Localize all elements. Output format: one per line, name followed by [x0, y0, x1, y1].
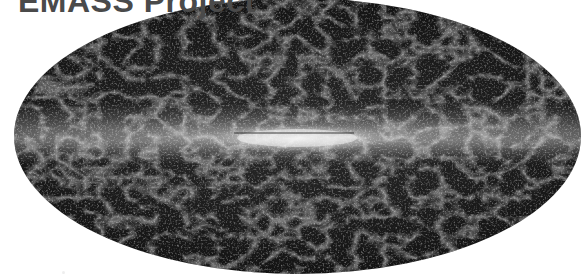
cosmic-web-texture: [14, 0, 581, 274]
speck: [62, 271, 65, 274]
image-title: EMASS Project: [18, 0, 256, 20]
all-sky-map: [14, 0, 581, 274]
